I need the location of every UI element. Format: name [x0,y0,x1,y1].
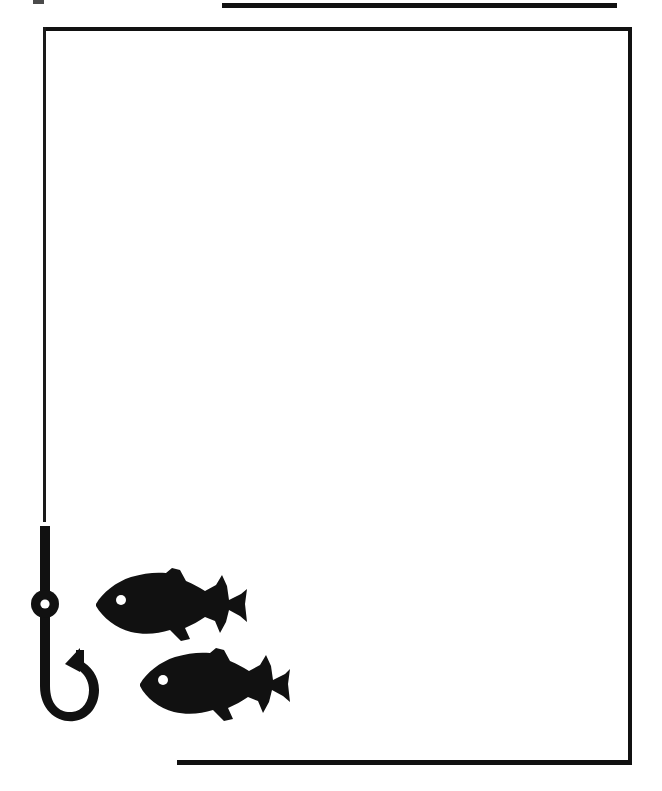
clip-art-canvas: Fishing Page Border Fishing hook and two… [0,0,662,791]
hook-point-stem [76,650,84,668]
frame-top-edge [44,27,632,31]
blank-writing-area [48,33,628,759]
top-rule [222,3,617,8]
fishing-border-illustration [0,0,662,791]
fish-lower-eye [158,675,168,685]
frame-bottom-edge [177,760,632,765]
frame-right-edge [628,27,632,765]
scan-artifact-speck [33,0,44,4]
fish-upper-eye [116,595,126,605]
frame-left-edge-fishing-line [43,27,46,522]
hook-eye-hole [40,599,49,608]
